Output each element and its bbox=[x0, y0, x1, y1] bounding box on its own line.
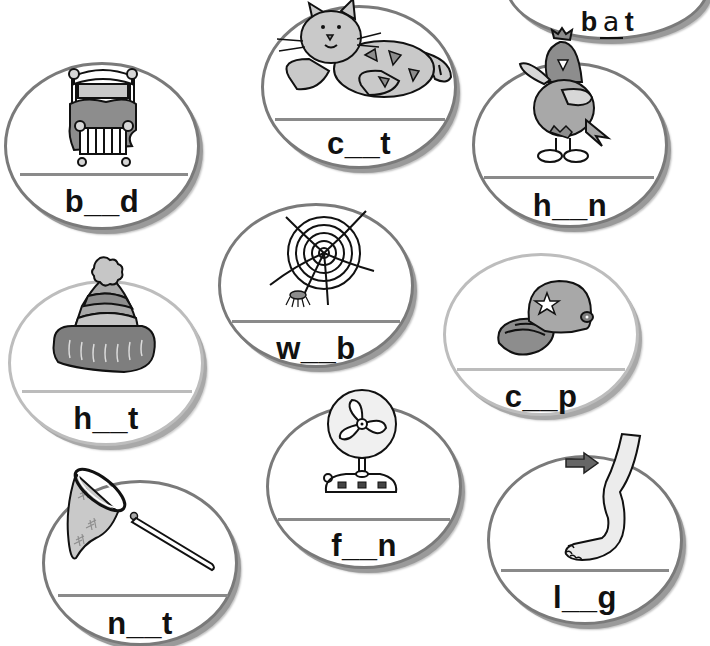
card-cat: c__t bbox=[261, 5, 457, 169]
card-hen: h__n bbox=[472, 62, 668, 228]
arrow-right-icon bbox=[564, 452, 600, 474]
card-fan: f__n bbox=[266, 404, 462, 569]
card-word: l__g bbox=[487, 582, 683, 613]
letter-blank[interactable]: __ bbox=[552, 188, 587, 223]
wool-hat-icon bbox=[48, 256, 160, 380]
spider-web-icon bbox=[266, 213, 376, 313]
answer-line bbox=[457, 368, 625, 371]
letter-blank[interactable]: __ bbox=[342, 528, 377, 563]
card-word: b__d bbox=[4, 186, 200, 217]
electric-fan-icon bbox=[322, 390, 402, 502]
hen-icon bbox=[516, 28, 616, 168]
answer-line bbox=[275, 118, 445, 121]
letter-blank[interactable]: __ bbox=[127, 606, 162, 641]
card-word: c__p bbox=[443, 381, 639, 412]
card-cap: c__p bbox=[443, 253, 639, 416]
card-word: n__t bbox=[42, 608, 238, 639]
example-last-letter: t bbox=[625, 7, 635, 37]
baseball-cap-icon bbox=[495, 277, 599, 361]
card-word: c__t bbox=[261, 128, 457, 159]
answer-line bbox=[278, 518, 450, 521]
letter-blank[interactable]: __ bbox=[84, 184, 119, 219]
bed-icon bbox=[66, 66, 142, 170]
letter-blank[interactable]: __ bbox=[301, 331, 336, 366]
card-word: w__b bbox=[218, 333, 414, 364]
answer-line bbox=[22, 390, 192, 393]
butterfly-net-icon bbox=[62, 464, 222, 574]
letter-blank[interactable]: __ bbox=[93, 401, 128, 436]
card-word: f__n bbox=[266, 530, 462, 561]
cat-icon bbox=[269, 0, 459, 99]
answer-line bbox=[58, 594, 228, 597]
card-web: w__b bbox=[218, 203, 414, 368]
letter-blank[interactable]: __ bbox=[562, 580, 597, 615]
answer-line bbox=[232, 320, 400, 323]
letter-blank[interactable]: __ bbox=[345, 126, 380, 161]
card-word: h__t bbox=[8, 403, 204, 434]
card-bed: b__d bbox=[4, 62, 200, 230]
letter-blank[interactable]: __ bbox=[522, 379, 557, 414]
card-hat: h__t bbox=[8, 280, 204, 446]
answer-line bbox=[484, 176, 654, 179]
answer-line bbox=[20, 173, 188, 176]
answer-line bbox=[501, 569, 669, 572]
card-word: h__n bbox=[472, 190, 668, 221]
